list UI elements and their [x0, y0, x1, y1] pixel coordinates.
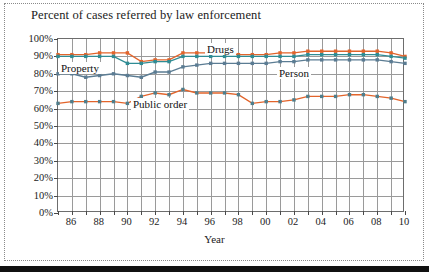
- series-marker: [195, 55, 198, 58]
- series-marker: [223, 62, 226, 65]
- series-marker: [320, 58, 323, 61]
- series-marker: [376, 53, 379, 56]
- series-marker: [112, 100, 115, 103]
- y-tick-label: 100%: [29, 33, 54, 44]
- x-tick-label: 06: [343, 216, 354, 227]
- series-marker: [112, 55, 115, 58]
- series-label-public-order: Public order: [131, 98, 189, 110]
- series-line-person: [58, 55, 405, 64]
- series-marker: [98, 51, 101, 54]
- y-tick-label: 10%: [34, 189, 53, 200]
- series-marker: [362, 58, 365, 61]
- series-marker: [209, 62, 212, 65]
- series-marker: [237, 62, 240, 65]
- chart-figure: Percent of cases referred by law enforce…: [0, 0, 429, 272]
- series-marker: [362, 93, 365, 96]
- series-marker: [98, 100, 101, 103]
- series-marker: [126, 74, 129, 77]
- x-tick-label: 94: [177, 216, 188, 227]
- series-marker: [306, 58, 309, 61]
- series-marker: [181, 65, 184, 68]
- x-tick-label: 00: [260, 216, 271, 227]
- x-tick-label: 98: [232, 216, 243, 227]
- y-tick-label: 70%: [34, 85, 53, 96]
- series-marker: [195, 51, 198, 54]
- y-tick-label: 50%: [34, 120, 53, 131]
- series-label-property: Property: [59, 62, 101, 74]
- series-marker: [251, 62, 254, 65]
- series-marker: [278, 55, 281, 58]
- series-marker: [389, 96, 392, 99]
- series-marker: [278, 51, 281, 54]
- series-label-person: Person: [277, 67, 311, 79]
- y-tick-label: 0%: [39, 207, 53, 218]
- series-marker: [251, 55, 254, 58]
- series-marker: [126, 102, 129, 105]
- series-marker: [195, 91, 198, 94]
- x-tick-label: 10: [399, 216, 410, 227]
- x-tick-label: 04: [315, 216, 326, 227]
- series-marker: [389, 55, 392, 58]
- y-tick-label: 20%: [34, 172, 53, 183]
- y-tick-label: 60%: [34, 102, 53, 113]
- y-tick-label: 80%: [34, 67, 53, 78]
- y-tick-label: 30%: [34, 154, 53, 165]
- plot-area: [57, 38, 404, 212]
- series-marker: [167, 70, 170, 73]
- series-marker: [320, 53, 323, 56]
- series-marker: [70, 55, 73, 58]
- series-marker: [306, 49, 309, 52]
- series-marker: [223, 55, 226, 58]
- series-marker: [389, 51, 392, 54]
- series-marker: [265, 62, 268, 65]
- series-marker: [334, 58, 337, 61]
- x-tick-label: 96: [204, 216, 215, 227]
- series-marker: [84, 100, 87, 103]
- series-marker: [320, 49, 323, 52]
- series-marker: [376, 49, 379, 52]
- series-marker: [362, 53, 365, 56]
- series-marker: [376, 58, 379, 61]
- x-tick-label: 92: [149, 216, 160, 227]
- series-label-drugs: Drugs: [205, 43, 236, 55]
- x-tick-label: 88: [93, 216, 104, 227]
- series-marker: [320, 95, 323, 98]
- series-marker: [153, 60, 156, 63]
- series-marker: [292, 98, 295, 101]
- series-marker: [348, 93, 351, 96]
- series-marker: [292, 60, 295, 63]
- x-tick: [405, 211, 406, 215]
- x-tick-label: 08: [371, 216, 382, 227]
- series-marker: [403, 62, 406, 65]
- series-marker: [209, 91, 212, 94]
- x-tick-label: 02: [288, 216, 299, 227]
- series-marker: [306, 53, 309, 56]
- series-marker: [140, 62, 143, 65]
- series-marker: [334, 95, 337, 98]
- series-marker: [153, 70, 156, 73]
- series-marker: [181, 51, 184, 54]
- series-marker: [403, 100, 406, 103]
- series-marker: [181, 88, 184, 91]
- series-marker: [348, 58, 351, 61]
- series-line-property: [58, 60, 405, 77]
- series-line-public-order: [58, 89, 405, 103]
- y-axis-labels: 0%10%20%30%40%50%60%70%80%90%100%: [0, 38, 53, 212]
- x-axis-title: Year: [0, 233, 429, 245]
- series-marker: [209, 55, 212, 58]
- series-marker: [84, 55, 87, 58]
- series-marker: [140, 76, 143, 79]
- series-marker: [223, 91, 226, 94]
- series-marker: [265, 100, 268, 103]
- series-marker: [84, 76, 87, 79]
- series-marker: [167, 93, 170, 96]
- series-marker: [181, 55, 184, 58]
- series-marker: [348, 53, 351, 56]
- series-marker: [195, 63, 198, 66]
- series-marker: [56, 102, 59, 105]
- series-marker: [306, 95, 309, 98]
- series-marker: [403, 56, 406, 59]
- series-marker: [334, 49, 337, 52]
- series-marker: [265, 55, 268, 58]
- series-marker: [153, 91, 156, 94]
